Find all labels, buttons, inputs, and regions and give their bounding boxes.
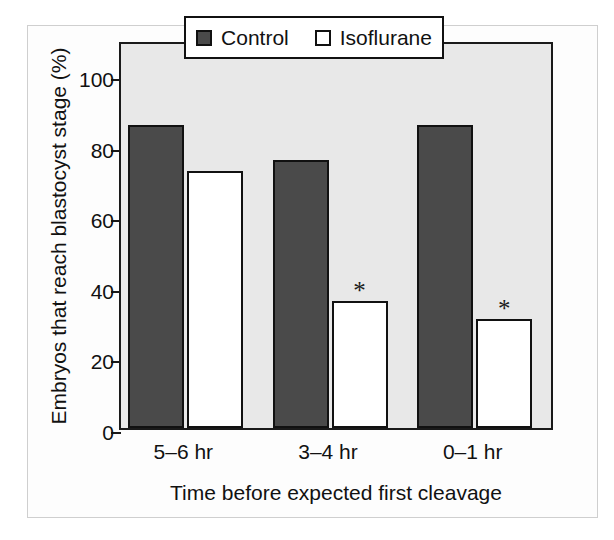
bar-isoflurane-1	[332, 301, 388, 428]
legend-entry-control: Control	[196, 27, 289, 48]
x-category-label-0: 5–6 hr	[154, 440, 214, 464]
y-tick-label: 80	[91, 139, 114, 160]
bar-control-2	[417, 125, 473, 428]
filled-square-icon	[196, 30, 212, 46]
y-tick-label: 0	[102, 422, 114, 443]
x-category-label-1: 3–4 hr	[298, 440, 358, 464]
y-tick-label: 100	[79, 69, 114, 90]
chart-legend: Control Isoflurane	[184, 16, 444, 59]
plot-inner: 020406080100 **	[121, 44, 551, 428]
x-category-label-2: 0–1 hr	[443, 440, 503, 464]
legend-label-control: Control	[221, 27, 289, 48]
y-tick-label: 20	[91, 351, 114, 372]
open-square-icon	[315, 30, 331, 46]
y-tick-label: 60	[91, 210, 114, 231]
bar-isoflurane-2	[476, 319, 532, 428]
y-tick-label: 40	[91, 280, 114, 301]
bar-isoflurane-0	[187, 171, 243, 428]
y-axis-title: Embryos that reach blastocyst stage (%)	[44, 42, 74, 430]
significance-asterisk: *	[353, 278, 366, 303]
plot-area: 020406080100 **	[119, 42, 553, 430]
legend-label-isoflurane: Isoflurane	[340, 27, 432, 48]
legend-entry-isoflurane: Isoflurane	[315, 27, 432, 48]
bar-control-1	[273, 160, 329, 428]
x-axis-title: Time before expected first cleavage	[119, 481, 553, 505]
bar-control-0	[128, 125, 184, 428]
figure-root: Embryos that reach blastocyst stage (%) …	[0, 0, 614, 540]
significance-asterisk: *	[498, 296, 511, 321]
